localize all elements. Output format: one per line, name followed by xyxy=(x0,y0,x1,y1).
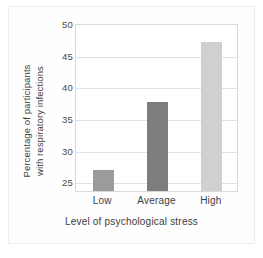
bar-average xyxy=(147,102,168,191)
y-axis-title: Percentage of participants with respirat… xyxy=(20,44,46,199)
x-tick-label: Low xyxy=(93,195,112,206)
y-axis-title-line-2: with respiratory infections xyxy=(33,44,46,199)
x-tick-label: High xyxy=(200,195,221,206)
x-axis-tick-labels: LowAverageHigh xyxy=(75,195,238,211)
y-tick-label: 35 xyxy=(62,114,73,125)
x-axis-title: Level of psychological stress xyxy=(8,216,255,227)
y-axis-title-line-1: Percentage of participants xyxy=(20,44,33,199)
y-tick-label: 50 xyxy=(62,19,73,30)
bar-high xyxy=(201,42,222,191)
bar-series xyxy=(76,25,237,191)
x-tick-label: Average xyxy=(137,195,175,206)
y-axis-tick-labels: 504540353025 xyxy=(52,24,73,192)
bar-chart-figure: Percentage of participants with respirat… xyxy=(0,0,263,258)
y-tick-label: 25 xyxy=(62,177,73,188)
y-tick-label: 40 xyxy=(62,82,73,93)
y-tick-label: 45 xyxy=(62,50,73,61)
y-tick-label: 30 xyxy=(62,145,73,156)
bar-low xyxy=(93,170,114,191)
plot-area xyxy=(75,24,238,192)
